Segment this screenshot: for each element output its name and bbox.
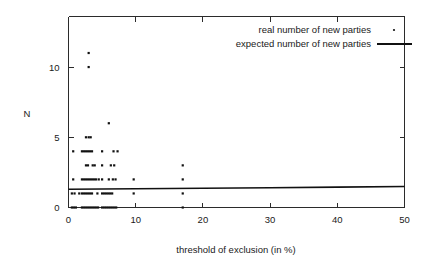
y-tick-label: 10 xyxy=(49,62,60,73)
y-axis-title: N xyxy=(24,108,31,119)
data-point xyxy=(95,178,97,180)
data-point xyxy=(116,150,118,152)
data-point xyxy=(101,206,103,208)
data-point xyxy=(85,192,87,194)
y-tick-label: 0 xyxy=(54,202,59,213)
data-point xyxy=(107,192,109,194)
scatter-plot: 01020304050 0510 threshold of exclusion … xyxy=(0,0,431,263)
data-point xyxy=(110,164,112,166)
data-point xyxy=(91,178,93,180)
data-points-layer xyxy=(71,52,184,209)
data-point xyxy=(85,164,87,166)
data-point xyxy=(88,52,90,54)
expected-number-line xyxy=(69,186,405,189)
y-tick-labels: 0510 xyxy=(49,62,60,213)
data-point xyxy=(88,136,90,138)
x-axis-title: threshold of exclusion (in %) xyxy=(176,244,295,255)
data-point xyxy=(71,206,73,208)
data-point xyxy=(96,192,98,194)
x-tick-label: 20 xyxy=(198,214,209,225)
data-point xyxy=(91,150,93,152)
data-point xyxy=(87,206,89,208)
data-point xyxy=(113,206,115,208)
data-point xyxy=(112,178,114,180)
data-point xyxy=(95,206,97,208)
data-point xyxy=(81,150,83,152)
data-point xyxy=(182,164,184,166)
data-point xyxy=(89,178,91,180)
data-point xyxy=(71,192,73,194)
data-point xyxy=(93,178,95,180)
data-point xyxy=(111,192,113,194)
x-tick-label: 30 xyxy=(265,214,276,225)
data-point xyxy=(73,192,75,194)
data-point xyxy=(92,164,94,166)
data-point xyxy=(88,66,90,68)
data-point xyxy=(89,192,91,194)
data-point xyxy=(85,150,87,152)
data-point xyxy=(83,206,85,208)
data-point xyxy=(93,206,95,208)
data-point xyxy=(115,206,117,208)
data-point xyxy=(109,192,111,194)
data-point xyxy=(133,178,135,180)
data-point xyxy=(103,206,105,208)
data-point xyxy=(182,206,184,208)
data-point xyxy=(72,150,74,152)
data-point xyxy=(87,192,89,194)
data-point xyxy=(85,206,87,208)
data-point xyxy=(114,178,116,180)
data-point xyxy=(81,178,83,180)
legend-marker-dot xyxy=(393,29,395,31)
data-point xyxy=(81,206,83,208)
data-point xyxy=(103,192,105,194)
data-point xyxy=(73,206,75,208)
x-tick-label: 50 xyxy=(399,214,410,225)
data-point xyxy=(89,150,91,152)
data-point xyxy=(87,150,89,152)
data-point xyxy=(83,150,85,152)
data-point xyxy=(108,122,110,124)
data-point xyxy=(85,136,87,138)
data-point xyxy=(111,206,113,208)
data-point xyxy=(91,206,93,208)
data-point xyxy=(101,192,103,194)
data-point xyxy=(97,206,99,208)
data-point xyxy=(133,192,135,194)
data-point xyxy=(87,164,89,166)
expected-line-layer xyxy=(69,186,405,189)
x-tick-labels: 01020304050 xyxy=(66,214,410,225)
data-point xyxy=(101,178,103,180)
data-point xyxy=(98,178,100,180)
data-point xyxy=(101,164,103,166)
data-point xyxy=(83,192,85,194)
legend: real number of new parties expected numb… xyxy=(236,24,412,49)
data-point xyxy=(105,206,107,208)
y-tick-label: 5 xyxy=(54,132,59,143)
data-point xyxy=(83,178,85,180)
x-tick-label: 40 xyxy=(332,214,343,225)
data-point xyxy=(87,178,89,180)
data-point xyxy=(109,206,111,208)
data-point xyxy=(75,206,77,208)
data-point xyxy=(91,192,93,194)
data-point xyxy=(107,206,109,208)
data-point xyxy=(89,206,91,208)
chart-figure: 01020304050 0510 threshold of exclusion … xyxy=(0,0,431,263)
data-point xyxy=(182,178,184,180)
data-point xyxy=(112,150,114,152)
data-point xyxy=(105,192,107,194)
legend-label-real: real number of new parties xyxy=(259,24,372,35)
data-point xyxy=(90,136,92,138)
data-point xyxy=(182,192,184,194)
legend-label-expected: expected number of new parties xyxy=(236,38,371,49)
data-point xyxy=(85,178,87,180)
data-point xyxy=(113,164,115,166)
x-tick-label: 10 xyxy=(130,214,141,225)
data-point xyxy=(72,178,74,180)
data-point xyxy=(108,178,110,180)
data-point xyxy=(94,164,96,166)
x-tick-label: 0 xyxy=(66,214,71,225)
data-point xyxy=(81,192,83,194)
data-point xyxy=(101,150,103,152)
